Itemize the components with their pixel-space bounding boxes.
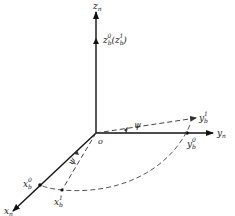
x-n-label: xn [4, 206, 13, 216]
y-b0-label: yb0 [186, 136, 196, 150]
rotation-arc [40, 125, 190, 191]
z-b0-label: zb0(zb1) [102, 32, 127, 46]
y-b1-ray [96, 118, 196, 133]
x-b1-label: xb1 [54, 194, 63, 208]
y-b1-label: yb1 [198, 110, 208, 124]
x-b0-label: xb0 [23, 176, 32, 190]
x-b1-point [60, 188, 63, 191]
frame-rotation-diagram: zn zb0(zb1) yn yb1 yb0 o ψ ψ xb0 xb1 xn [0, 0, 235, 216]
z-n-label: zn [92, 1, 102, 12]
psi-y-label: ψ [134, 120, 142, 130]
x-b0-point [38, 183, 42, 187]
origin-label: o [98, 137, 103, 146]
y-n-label: yn [216, 128, 226, 139]
z-b0-marker [93, 38, 99, 44]
